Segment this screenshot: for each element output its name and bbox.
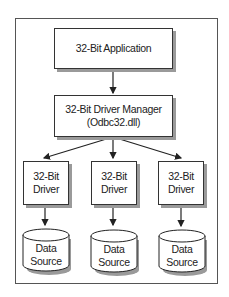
driver-label: Driver — [33, 183, 59, 196]
data-source-cylinder-2: Data Source — [89, 228, 139, 274]
driver-manager-dll: (Odbc32.dll) — [87, 116, 141, 129]
driver-label: 32-Bit — [33, 170, 59, 183]
data-source-label: Source — [21, 255, 71, 268]
data-source-label: Data — [157, 243, 207, 256]
data-source-label: Data — [89, 243, 139, 256]
data-source-cylinder-1: Data Source — [21, 227, 71, 273]
data-source-label: Source — [89, 256, 139, 269]
driver-label: Driver — [168, 183, 194, 196]
data-source-cylinder-3: Data Source — [157, 228, 207, 274]
driver-box-1: 32-Bit Driver — [23, 161, 69, 205]
data-source-label: Source — [157, 256, 207, 269]
data-source-label: Data — [21, 242, 71, 255]
driver-label: 32-Bit — [101, 170, 127, 183]
application-box: 32-Bit Application — [54, 28, 173, 69]
driver-manager-box: 32-Bit Driver Manager (Odbc32.dll) — [54, 95, 173, 137]
driver-box-2: 32-Bit Driver — [91, 161, 137, 205]
application-label: 32-Bit Application — [76, 42, 152, 55]
driver-label: 32-Bit — [168, 170, 194, 183]
driver-box-3: 32-Bit Driver — [158, 161, 204, 205]
driver-label: Driver — [101, 183, 127, 196]
driver-manager-label: 32-Bit Driver Manager — [65, 103, 161, 116]
